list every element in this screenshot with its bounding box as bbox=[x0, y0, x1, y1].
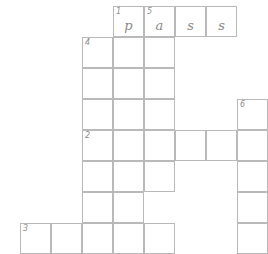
crossword-cell[interactable] bbox=[144, 99, 175, 130]
crossword-cell[interactable]: 6 bbox=[237, 99, 268, 130]
crossword-cell[interactable] bbox=[144, 161, 175, 192]
cell-letter: s bbox=[176, 7, 205, 36]
crossword-cell[interactable] bbox=[175, 130, 206, 161]
crossword-cell[interactable] bbox=[82, 192, 113, 223]
cell-letter: s bbox=[207, 7, 236, 36]
crossword-cell[interactable] bbox=[82, 223, 113, 254]
crossword-cell[interactable] bbox=[51, 223, 82, 254]
crossword-cell[interactable]: s bbox=[206, 6, 237, 37]
crossword-cell[interactable] bbox=[82, 68, 113, 99]
cell-clue-number: 6 bbox=[240, 100, 245, 110]
crossword-cell[interactable] bbox=[144, 223, 175, 254]
crossword-cell[interactable] bbox=[237, 192, 268, 223]
crossword-cell[interactable] bbox=[113, 192, 144, 223]
cell-clue-number: 4 bbox=[85, 38, 90, 48]
crossword-cell[interactable] bbox=[113, 161, 144, 192]
crossword-cell[interactable] bbox=[113, 223, 144, 254]
cell-letter: p bbox=[114, 7, 143, 36]
crossword-cell[interactable] bbox=[144, 37, 175, 68]
crossword-cell[interactable] bbox=[144, 130, 175, 161]
crossword-cell[interactable] bbox=[113, 130, 144, 161]
cell-clue-number: 2 bbox=[85, 131, 90, 141]
crossword-cell[interactable] bbox=[237, 130, 268, 161]
crossword-cell[interactable]: s bbox=[175, 6, 206, 37]
crossword-cell[interactable]: 3 bbox=[20, 223, 51, 254]
crossword-cell[interactable]: 2 bbox=[82, 130, 113, 161]
cell-letter: a bbox=[145, 7, 174, 36]
crossword-cell[interactable] bbox=[237, 223, 268, 254]
crossword-cell[interactable] bbox=[237, 161, 268, 192]
crossword-cell[interactable] bbox=[113, 68, 144, 99]
crossword-cell[interactable] bbox=[144, 68, 175, 99]
crossword-cell[interactable] bbox=[82, 99, 113, 130]
crossword-cell[interactable]: 4 bbox=[82, 37, 113, 68]
crossword-cell[interactable] bbox=[82, 161, 113, 192]
cell-clue-number: 3 bbox=[23, 224, 28, 234]
crossword-cell[interactable] bbox=[206, 130, 237, 161]
crossword-cell[interactable] bbox=[113, 37, 144, 68]
crossword-cell[interactable]: 1p bbox=[113, 6, 144, 37]
crossword-cell[interactable] bbox=[113, 99, 144, 130]
crossword-cell[interactable]: 5a bbox=[144, 6, 175, 37]
